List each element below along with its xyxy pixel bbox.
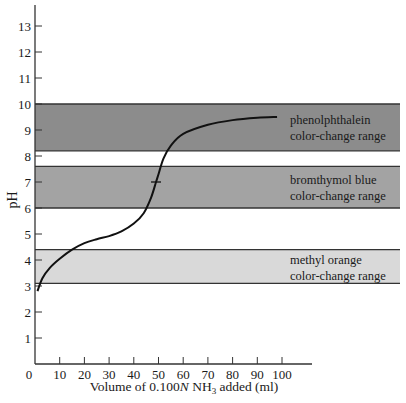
y-tick-label: 11 <box>18 71 31 86</box>
y-tick-label: 13 <box>18 19 31 34</box>
band-label: phenolphthalein <box>290 113 371 127</box>
y-axis-label: pH <box>5 191 20 208</box>
x-tick-label: 0 <box>26 367 33 382</box>
x-tick-label: 10 <box>53 367 66 382</box>
y-tick-label: 4 <box>25 253 32 268</box>
y-tick-label: 9 <box>25 123 32 138</box>
band-label: color-change range <box>290 129 386 143</box>
y-tick-label: 6 <box>25 201 32 216</box>
y-tick-label: 3 <box>25 279 32 294</box>
band-label: color-change range <box>290 189 386 203</box>
x-axis-label: Volume of 0.100N NH3 added (ml) <box>90 379 279 396</box>
y-tick-label: 10 <box>18 97 31 112</box>
y-tick-label: 1 <box>25 331 32 346</box>
band-label: color-change range <box>290 269 386 283</box>
y-tick-label: 5 <box>25 227 32 242</box>
titration-chart: 123456789101112130102030405060708090100 … <box>0 0 406 403</box>
band-label: methyl orange <box>290 253 362 267</box>
y-tick-label: 8 <box>25 149 32 164</box>
y-tick-label: 7 <box>25 175 32 190</box>
y-tick-label: 2 <box>25 305 32 320</box>
y-tick-label: 12 <box>18 45 31 60</box>
band-label: bromthymol blue <box>290 173 377 187</box>
